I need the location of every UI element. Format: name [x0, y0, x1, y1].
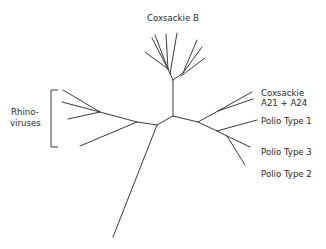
backbone-edges [113, 80, 198, 237]
label-polio-type-3: Polio Type 3 [261, 147, 312, 157]
label-coxsackie-a-line2: A21 + A24 [261, 98, 307, 108]
coxsackie-b-clade [145, 33, 205, 80]
phylogenetic-tree: Coxsackie B Rhino- viruses Coxsackie A21… [0, 0, 326, 249]
label-coxsackie-a-line1: Coxsackie [261, 88, 304, 98]
label-rhinoviruses-line2: viruses [10, 118, 41, 128]
label-rhinoviruses-line1: Rhino- [11, 107, 39, 117]
polio-coxsackie-a-clade [198, 92, 257, 165]
label-polio-type-1: Polio Type 1 [261, 116, 312, 126]
label-polio-type-2: Polio Type 2 [261, 169, 312, 179]
rhinovirus-clade [62, 90, 137, 146]
outgroup-branch [113, 125, 157, 237]
rhinovirus-bracket [51, 90, 58, 147]
label-coxsackie-b: Coxsackie B [147, 13, 199, 23]
